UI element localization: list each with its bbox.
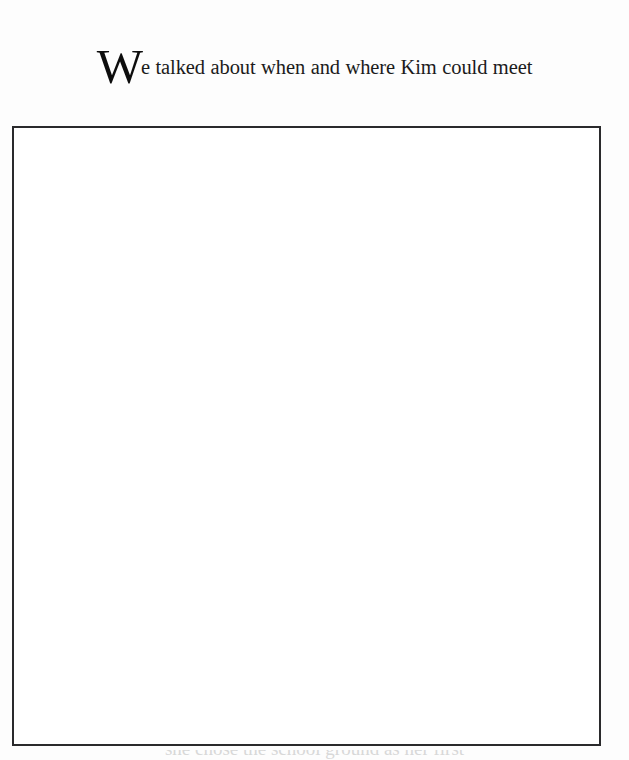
bottom-cutoff-text: she chose the school ground as her first bbox=[0, 750, 629, 760]
bottom-cutoff-strip: she chose the school ground as her first bbox=[0, 750, 629, 760]
caption-line-1: We talked about when and where Kim could… bbox=[14, 49, 615, 84]
dropcap-letter: W bbox=[97, 49, 142, 84]
image-frame bbox=[12, 126, 601, 746]
image-frame-blank-area bbox=[14, 128, 599, 744]
caption-line-1-text: e talked about when and where Kim could … bbox=[141, 56, 532, 78]
